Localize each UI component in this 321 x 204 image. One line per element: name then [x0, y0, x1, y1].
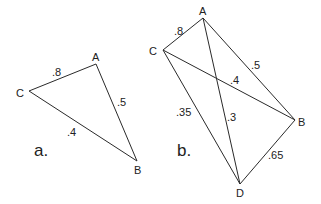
edge-weight-label: .35 — [176, 106, 191, 118]
edge-weight-label: .4 — [67, 126, 76, 138]
vertex-label-D: D — [236, 187, 244, 199]
edge-weight-label: .3 — [227, 111, 236, 123]
figure-caption: b. — [177, 141, 191, 160]
graph-diagram: .8.5.4ABCa..8.5.4.35.3.65ABCDb. — [0, 0, 321, 204]
edge-weight-label: .65 — [268, 149, 283, 161]
edge-CA — [29, 64, 96, 91]
edge-weight-label: .8 — [52, 66, 61, 78]
figure-caption: a. — [34, 141, 48, 160]
vertex-label-C: C — [149, 45, 157, 57]
edge-AB — [203, 18, 295, 120]
edge-weight-label: .4 — [230, 74, 239, 86]
edge-AB — [96, 64, 137, 161]
vertex-label-B: B — [298, 116, 305, 128]
edge-weight-label: .5 — [251, 59, 260, 71]
vertex-label-C: C — [16, 87, 24, 99]
vertex-label-A: A — [92, 51, 100, 63]
figure-b: .8.5.4.35.3.65ABCDb. — [149, 5, 305, 199]
figure-a: .8.5.4ABCa. — [16, 51, 141, 176]
edge-weight-label: .8 — [174, 25, 183, 37]
vertex-label-B: B — [134, 164, 141, 176]
vertex-label-A: A — [199, 5, 207, 17]
edge-weight-label: .5 — [117, 96, 126, 108]
edge-AD — [203, 18, 240, 184]
